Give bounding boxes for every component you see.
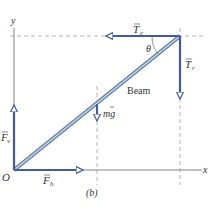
svg-text:F: F [42, 174, 50, 186]
svg-text:mg: mg [103, 108, 115, 119]
svg-text:T: T [185, 58, 192, 70]
angle-label: θ [146, 43, 151, 54]
force-vertical-label: F v [0, 131, 11, 145]
origin-label: O [2, 171, 10, 183]
svg-text:T: T [133, 23, 140, 35]
svg-text:v: v [7, 137, 11, 145]
beam-label: Beam [127, 85, 151, 96]
x-axis-label: x [202, 164, 208, 175]
weight-label: mg [103, 107, 115, 119]
svg-text:h: h [50, 180, 54, 188]
force-horizontal-label: F h [42, 174, 54, 188]
angle-arc [152, 36, 158, 54]
tension-c-label: T c [133, 23, 144, 37]
svg-text:r: r [192, 64, 195, 72]
figure-caption: (b) [86, 187, 98, 199]
free-body-diagram: y x O Beam θ T c T r mg F v F h (b) [0, 0, 210, 207]
tension-r-label: T r [185, 58, 195, 72]
y-axis-label: y [10, 15, 16, 26]
